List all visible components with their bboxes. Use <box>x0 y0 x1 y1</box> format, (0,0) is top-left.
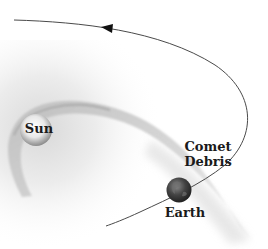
sun-label: Sun <box>19 122 59 136</box>
orbit-direction-arrow-icon <box>101 24 113 33</box>
comet-label-line1: Comet <box>178 139 238 154</box>
earth-label: Earth <box>155 206 215 220</box>
comet-debris-label: Comet Debris <box>178 139 238 169</box>
comet-label-line2: Debris <box>178 154 238 169</box>
earth <box>167 178 192 203</box>
